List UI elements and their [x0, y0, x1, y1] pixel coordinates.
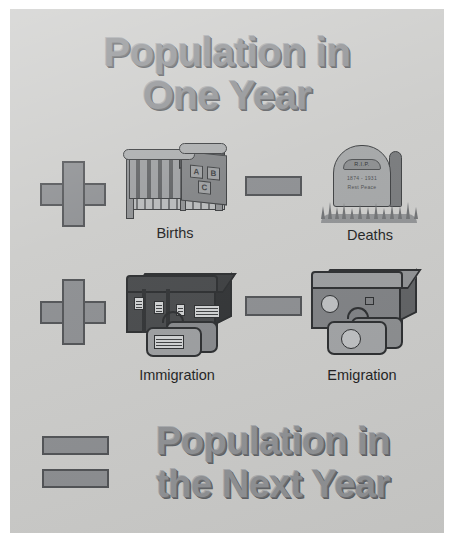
- crib-block-b: B: [207, 166, 220, 180]
- result-title: Population in the Next Year: [102, 420, 444, 506]
- suitcase-clasp: [365, 297, 374, 305]
- item-emigration: Emigration: [303, 267, 421, 359]
- crib-block-a: A: [190, 165, 203, 179]
- item-label-births: Births: [93, 225, 257, 241]
- item-label-emigration: Emigration: [273, 367, 444, 383]
- page-title-line-1: Population in: [10, 31, 444, 74]
- trunk-sticker-2: [154, 301, 164, 314]
- bag-round-sticker: [341, 329, 361, 349]
- item-immigration: Immigration: [118, 271, 236, 363]
- tombstone-epitaph-line-1: 1874 - 1931: [339, 175, 385, 181]
- luggage-icon: [118, 271, 236, 363]
- crib-block-c: C: [198, 180, 211, 194]
- equals-bar-bottom: [42, 469, 109, 488]
- equals-sign: [42, 436, 109, 488]
- plus-sign-immigration: [40, 279, 106, 345]
- item-births: A B C Births: [123, 141, 227, 219]
- trunk-label-tag: [194, 305, 220, 318]
- item-label-immigration: Immigration: [88, 367, 266, 383]
- trunk-strap-left: [142, 289, 146, 333]
- result-title-line-2: the Next Year: [102, 463, 444, 506]
- tombstone-name-band: R.I.P.: [343, 159, 381, 170]
- population-equation-poster: Population in One Year: [10, 9, 444, 533]
- item-deaths: R.I.P. 1874 - 1931 Rest Peace Deaths: [315, 143, 425, 223]
- tombstone-icon: R.I.P. 1874 - 1931 Rest Peace: [315, 143, 425, 223]
- grass-tuft: [317, 197, 423, 219]
- tombstone-epitaph-line-2: Rest Peace: [339, 184, 385, 190]
- plus-center: [64, 185, 83, 204]
- bag-label-tag: [154, 335, 184, 349]
- trunk-lid: [126, 275, 218, 293]
- trunk-sticker-1: [134, 297, 144, 310]
- page-title-line-2: One Year: [10, 74, 444, 117]
- suitcase-icon: [303, 267, 421, 359]
- plus-center: [64, 303, 83, 322]
- equals-bar-top: [42, 436, 109, 455]
- minus-sign-deaths: [245, 176, 302, 196]
- plus-sign-births: [40, 161, 106, 227]
- suitcase-lid: [311, 271, 403, 289]
- page-title: Population in One Year: [10, 31, 444, 117]
- item-label-deaths: Deaths: [285, 227, 444, 243]
- minus-sign-emigration: [245, 296, 302, 316]
- crib-top-rail-back: [179, 143, 227, 154]
- crib-icon: A B C: [123, 141, 227, 219]
- suitcase-round-sticker: [321, 295, 339, 313]
- result-title-line-1: Population in: [102, 420, 444, 463]
